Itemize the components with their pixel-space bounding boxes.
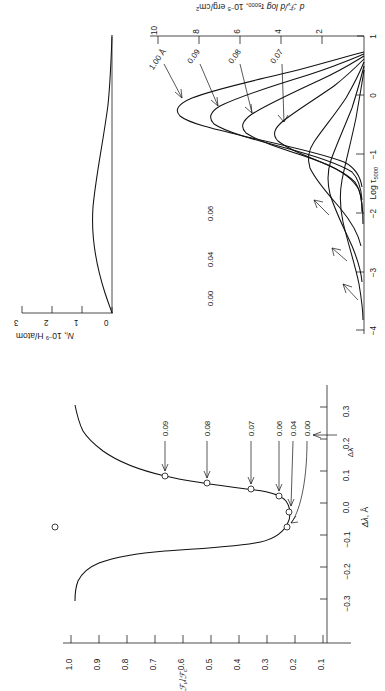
contribution-label-0p00: 0.00 xyxy=(206,291,215,307)
cv-comma: , 10 xyxy=(234,2,248,12)
pointer-0p00 xyxy=(291,441,307,523)
profile-ytick-0p8: 0.8 xyxy=(121,659,130,670)
profile-xtick-m0p3: −0.3 xyxy=(343,595,352,611)
cv-F: ℱ xyxy=(290,2,297,12)
contribution-ytick-2: 2 xyxy=(315,29,324,34)
contribution-xtick-m4: −4 xyxy=(369,326,378,335)
profile-xtick-0p0: 0.0 xyxy=(342,502,351,513)
profile-ytick-0p3: 0.3 xyxy=(261,659,270,670)
profile-marker-0p09 xyxy=(162,473,168,479)
pf-F1: ℱ xyxy=(178,684,188,691)
pw-delta: Δλ xyxy=(360,517,370,527)
leader-0p08 xyxy=(240,64,252,113)
contribution-xtick-1: 1 xyxy=(369,34,378,39)
profile-label-0p07: 0.07 xyxy=(247,421,256,437)
pf-slash: / xyxy=(178,679,188,681)
contribution-depth-title: Log τ5000 xyxy=(368,167,378,200)
profile-label-0p09: 0.09 xyxy=(161,421,170,437)
profile-ytick-0p9: 0.9 xyxy=(93,659,102,670)
contribution-xtick-0: 0 xyxy=(369,93,378,98)
cv-unitsexp: 2 xyxy=(196,6,199,12)
cv-units: erg/cm xyxy=(199,2,227,12)
profile-ytick-0p2: 0.2 xyxy=(289,659,298,670)
cv-exp: −5 xyxy=(228,6,235,12)
contribution-ytick-4: 4 xyxy=(274,29,283,34)
contribution-ytick-10: 10 xyxy=(150,26,159,35)
contribution-xtick-m2: −2 xyxy=(369,209,378,218)
profile-xtick-p0p3: 0.3 xyxy=(342,406,351,417)
profile-xtick-m0p1: −0.1 xyxy=(343,531,352,547)
pw-unit: , Å xyxy=(360,507,370,517)
cv-tausub: 5000 xyxy=(248,2,261,8)
abundance-tick-2: 2 xyxy=(44,318,49,327)
contribution-ytick-8: 8 xyxy=(192,29,201,34)
contribution-ytick-6: 6 xyxy=(233,29,242,34)
profile-pointer-label: Δλ xyxy=(346,448,355,457)
profile-ytick-0p5: 0.5 xyxy=(205,659,214,670)
contribution-label-0p04: 0.04 xyxy=(206,252,215,268)
profile-marker-0p06 xyxy=(276,493,282,499)
contribution-xtick-m1: −1 xyxy=(369,150,378,159)
profile-marker-0p08 xyxy=(204,480,210,486)
contribution-label-0p06: 0.06 xyxy=(206,206,215,222)
profile-label-0p00: 0.00 xyxy=(303,421,312,437)
pf-c: c xyxy=(182,669,188,672)
abundance-tick-1: 1 xyxy=(74,318,79,327)
profile-ytick-0p4: 0.4 xyxy=(233,659,242,670)
abundance-title-tail: H/atom xyxy=(16,331,46,341)
profile-flux-title: ℱν/ℱc xyxy=(178,669,188,691)
abundance-title-exp: −9 xyxy=(46,335,53,341)
profile-ytick-0p1: 0.1 xyxy=(317,659,326,670)
profile-marker-0p07 xyxy=(248,486,254,492)
contribution-depth-title-main: Log τ xyxy=(368,180,378,200)
abundance-tick-3: 3 xyxy=(14,318,19,327)
contribution-value-title: d ℱν/d log τ5000, 10−5 erg/cm2 xyxy=(196,2,305,12)
profile-curve xyxy=(75,405,290,601)
profile-xtick-m0p2: −0.2 xyxy=(343,563,352,579)
pf-F2: ℱ xyxy=(178,672,188,679)
leader-1p00 xyxy=(164,64,182,98)
pf-nu: ν xyxy=(182,681,188,684)
cv-d1: d xyxy=(300,2,305,12)
profile-marker-0p04 xyxy=(286,509,292,515)
abundance-tick-0: 0 xyxy=(104,318,109,327)
profile-ytick-0p7: 0.7 xyxy=(149,659,158,670)
abundance-axis-title: Ni, 10−9 H/atom xyxy=(16,331,74,341)
profile-label-0p04: 0.04 xyxy=(289,421,298,437)
abundance-curve xyxy=(93,35,112,313)
abundance-title-symbol: N xyxy=(68,331,74,341)
contribution-depth-title-sub: 5000 xyxy=(373,167,379,180)
cv-nu: ν xyxy=(288,2,291,8)
profile-label-0p06: 0.06 xyxy=(275,421,284,437)
contribution-xtick-m3: −3 xyxy=(369,268,378,277)
pointer-0p04 xyxy=(291,441,293,506)
profile-label-0p08: 0.08 xyxy=(203,421,212,437)
leader-0p09 xyxy=(200,64,218,106)
leader-0p07 xyxy=(282,64,284,122)
abundance-title-rest: , 10 xyxy=(52,331,66,341)
cv-mid: /d log τ xyxy=(261,2,287,12)
profile-ytick-1p0: 1.0 xyxy=(65,659,74,670)
profile-xtick-p0p1: 0.1 xyxy=(342,470,351,481)
leader-0p06 xyxy=(314,200,329,215)
profile-marker-0p00 xyxy=(52,524,58,530)
leader-1p00-head xyxy=(175,89,182,98)
profile-wavelength-title: Δλ, Å xyxy=(360,507,370,527)
contribution-curve-0p09 xyxy=(211,54,364,200)
